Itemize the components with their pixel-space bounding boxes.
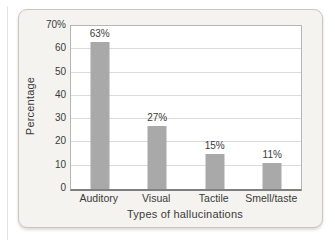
page-edge-line: [7, 6, 8, 240]
bar: [148, 126, 167, 189]
bar-slot-tactile: 15%: [186, 26, 244, 189]
bar: [90, 42, 109, 189]
y-tick-label-10: 10: [55, 160, 66, 170]
y-axis-tick-labels: 010203040506070%: [33, 25, 66, 188]
y-tick-label-50: 50: [55, 67, 66, 77]
x-axis-title: Types of hallucinations: [70, 208, 300, 220]
x-axis-tick-labels: AuditoryVisualTactileSmell/taste: [70, 193, 300, 205]
bar-value-label: 63%: [90, 29, 110, 39]
x-tick-label-smell-taste: Smell/taste: [243, 193, 301, 204]
bar-slot-auditory: 63%: [71, 26, 129, 189]
bar-slot-smell-taste: 11%: [244, 26, 302, 189]
x-tick-label-auditory: Auditory: [70, 193, 128, 204]
plot-area: 63%27%15%11%: [70, 25, 302, 191]
y-tick-label-20: 20: [55, 136, 66, 146]
y-tick-label-60: 60: [55, 43, 66, 53]
bar: [263, 163, 282, 189]
y-tick-label-70: 70%: [46, 20, 66, 30]
bar-value-label: 15%: [205, 141, 225, 151]
y-tick-label-30: 30: [55, 113, 66, 123]
y-tick-label-0: 0: [60, 183, 66, 193]
y-tick-label-40: 40: [55, 90, 66, 100]
bar-slot-visual: 27%: [129, 26, 187, 189]
x-tick-label-tactile: Tactile: [185, 193, 243, 204]
x-tick-label-visual: Visual: [128, 193, 186, 204]
chart-card: Percentage 010203040506070% 63%27%15%11%…: [18, 9, 323, 228]
page: Percentage 010203040506070% 63%27%15%11%…: [0, 0, 335, 246]
bar-value-label: 11%: [263, 150, 282, 160]
bar-value-label: 27%: [147, 113, 167, 123]
bar: [205, 154, 224, 189]
